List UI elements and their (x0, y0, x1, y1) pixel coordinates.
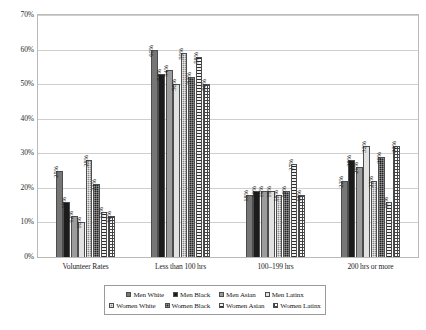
bar-slot: 29% (378, 15, 385, 257)
legend-swatch-icon (173, 292, 178, 297)
y-axis-tick-label: 30% (0, 149, 34, 157)
bar (371, 181, 378, 257)
bar (348, 160, 355, 257)
legend-label: Men White (133, 291, 164, 299)
legend-swatch-icon (219, 303, 224, 308)
bar-value-label: 28% (82, 156, 89, 167)
bar-slot: 58% (196, 15, 203, 257)
legend-row-women: Women WhiteWomen BlackWomen AsianWomen L… (109, 300, 321, 311)
legend-item-men-black[interactable]: Men Black (173, 291, 210, 299)
legend-label: Women Asian (226, 302, 264, 310)
bar (276, 195, 283, 257)
bar (86, 160, 93, 257)
bar-value-label: 29% (375, 152, 382, 163)
bar-value-label: 12% (105, 211, 112, 222)
bar-slot: 19% (261, 15, 268, 257)
bar (291, 164, 298, 257)
y-axis-tick-label: 70% (0, 11, 34, 19)
legend-swatch-icon (109, 303, 114, 308)
legend-swatch-icon (219, 292, 224, 297)
bar (386, 202, 393, 257)
bar-value-label: 32% (360, 142, 367, 153)
legend-label: Women Latinx (280, 302, 320, 310)
bar (393, 146, 400, 257)
bar-slot: 28% (348, 15, 355, 257)
bar (253, 191, 260, 257)
bar-slot: 27% (291, 15, 298, 257)
bar-value-label: 12% (67, 211, 74, 222)
bar-value-label: 18% (242, 190, 249, 201)
bar (246, 195, 253, 257)
bar (298, 195, 305, 257)
bar (188, 77, 195, 257)
bar-value-label: 13% (97, 207, 104, 218)
bar-slot: 54% (166, 15, 173, 257)
legend-label: Men Latinx (272, 291, 304, 299)
bar-value-label: 19% (280, 187, 287, 198)
y-axis-tick-label: 40% (0, 115, 34, 123)
bar-value-label: 53% (155, 69, 162, 80)
bar-value-label: 32% (390, 142, 397, 153)
bar-slot: 32% (393, 15, 400, 257)
bar-slot: 22% (341, 15, 348, 257)
y-axis-tick-label: 50% (0, 80, 34, 88)
bar-value-label: 21% (90, 180, 97, 191)
x-axis-category-labels: Volunteer RatesLess than 100 hrs100–199 … (38, 262, 418, 276)
bar-slot: 10% (78, 15, 85, 257)
legend-row-men: Men WhiteMen BlackMen AsianMen Latinx (109, 289, 321, 300)
bar-value-label: 58% (192, 52, 199, 63)
chart-legend: Men WhiteMen BlackMen AsianMen Latinx Wo… (104, 285, 326, 315)
y-axis-tick-label: 60% (0, 46, 34, 54)
legend-label: Women Black (172, 302, 211, 310)
legend-label: Women White (116, 302, 155, 310)
legend-item-men-white[interactable]: Men White (126, 291, 164, 299)
y-axis-tick-label: 20% (0, 184, 34, 192)
legend-item-men-asian[interactable]: Men Asian (219, 291, 256, 299)
bar-value-label: 19% (257, 187, 264, 198)
legend-item-women-latinx[interactable]: Women Latinx (273, 302, 320, 310)
bar-slot: 18% (298, 15, 305, 257)
bar (363, 146, 370, 257)
bar-value-label: 10% (75, 218, 82, 229)
legend-item-women-black[interactable]: Women Black (165, 302, 211, 310)
bar-group: 25%16%12%10%28%21%13%12% (38, 15, 133, 257)
bar-value-label: 19% (265, 187, 272, 198)
bar-value-label: 19% (250, 187, 257, 198)
bar-group: 18%19%19%19%18%19%27%18% (228, 15, 323, 257)
bar-slot: 53% (158, 15, 165, 257)
x-axis-category-label: Less than 100 hrs (133, 262, 228, 272)
bar (341, 181, 348, 257)
bar (356, 167, 363, 257)
bar-slot: 16% (386, 15, 393, 257)
bar-value-label: 50% (200, 79, 207, 90)
legend-item-women-asian[interactable]: Women Asian (219, 302, 264, 310)
legend-label: Men Black (180, 291, 210, 299)
y-axis-tick-label: 10% (0, 218, 34, 226)
bar-value-label: 22% (337, 176, 344, 187)
bar-value-label: 26% (352, 162, 359, 173)
legend-swatch-icon (265, 292, 270, 297)
bar (203, 84, 210, 257)
bar-slot: 19% (283, 15, 290, 257)
bar-value-label: 52% (185, 73, 192, 84)
bar-value-label: 27% (287, 159, 294, 170)
bar (56, 171, 63, 257)
legend-item-women-white[interactable]: Women White (109, 302, 155, 310)
legend-item-men-latinx[interactable]: Men Latinx (265, 291, 304, 299)
bar-value-label: 28% (345, 156, 352, 167)
bar-slot: 22% (371, 15, 378, 257)
legend-swatch-icon (126, 292, 131, 297)
y-axis-tick-label: 0% (0, 253, 34, 261)
bar-slot: 25% (56, 15, 63, 257)
legend-swatch-icon (165, 303, 170, 308)
bar-value-label: 50% (170, 79, 177, 90)
bar-value-label: 18% (272, 190, 279, 201)
bar-value-label: 18% (295, 190, 302, 201)
x-axis-category-label: 100–199 hrs (228, 262, 323, 272)
bar-slot: 59% (181, 15, 188, 257)
bar-slot: 19% (253, 15, 260, 257)
bar-slot: 21% (93, 15, 100, 257)
bar-slot: 60% (151, 15, 158, 257)
legend-swatch-icon (273, 303, 278, 308)
bar (173, 84, 180, 257)
